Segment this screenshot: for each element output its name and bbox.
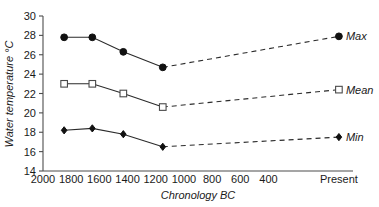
- series-max: [61, 33, 343, 71]
- x-axis-tick-label: 1800: [59, 173, 83, 185]
- data-point-marker-circle: [61, 34, 68, 41]
- series-label-min: Min: [346, 131, 364, 143]
- data-point-marker-square: [61, 81, 68, 88]
- x-axis-group: 200018001600140012001000800600400Present: [31, 171, 358, 185]
- y-axis-tick-label: 24: [24, 68, 36, 80]
- series-layer: [61, 33, 343, 150]
- series-line-dashed: [163, 36, 339, 67]
- x-axis-title: Chronology BC: [161, 189, 236, 201]
- data-point-marker-circle: [89, 34, 96, 41]
- data-point-marker-circle: [336, 33, 343, 40]
- data-point-marker-diamond: [121, 131, 127, 138]
- series-line-solid: [64, 84, 163, 107]
- data-point-marker-square: [89, 81, 96, 88]
- series-line-dashed: [163, 90, 339, 107]
- y-axis-group: 302826242220181614: [24, 10, 43, 177]
- y-axis-tick-label: 20: [24, 107, 36, 119]
- x-axis-tick-label: 800: [203, 173, 221, 185]
- y-axis-tick-labels: 302826242220181614: [24, 10, 43, 177]
- data-point-marker-square: [159, 104, 166, 111]
- series-line-solid: [64, 37, 163, 67]
- x-axis-tick-label: Present: [320, 173, 358, 185]
- y-axis-tick-label: 22: [24, 88, 36, 100]
- x-axis-tick-label: 1200: [143, 173, 167, 185]
- data-point-marker-square: [336, 86, 343, 93]
- series-line-solid: [64, 128, 163, 146]
- data-point-marker-circle: [159, 64, 166, 71]
- y-axis-tick-label: 30: [24, 10, 36, 22]
- series-line-dashed: [163, 137, 339, 147]
- y-axis-tick-label: 16: [24, 146, 36, 158]
- x-axis-tick-label: 2000: [31, 173, 55, 185]
- x-axis-tick-label: 1600: [87, 173, 111, 185]
- data-point-marker-diamond: [90, 125, 96, 132]
- series-mean: [61, 81, 342, 111]
- chart-container: 302826242220181614 200018001600140012001…: [0, 0, 379, 207]
- data-point-marker-diamond: [160, 143, 166, 150]
- y-axis-tick-label: 26: [24, 49, 36, 61]
- data-point-marker-diamond: [336, 133, 342, 140]
- y-axis-tick-label: 18: [24, 126, 36, 138]
- x-axis-tick-label: 1000: [172, 173, 196, 185]
- temperature-line-chart: 302826242220181614 200018001600140012001…: [0, 0, 379, 207]
- y-axis-tick-label: 28: [24, 29, 36, 41]
- y-axis-title: Water temperature °C: [3, 40, 15, 147]
- x-axis-tick-label: 400: [259, 173, 277, 185]
- series-inline-labels: MaxMeanMin: [346, 30, 374, 143]
- series-label-mean: Mean: [346, 84, 374, 96]
- data-point-marker-diamond: [61, 127, 67, 134]
- x-axis-tick-labels: 200018001600140012001000800600400Present: [31, 173, 358, 185]
- series-min: [61, 125, 341, 151]
- x-axis-tick-label: 1400: [115, 173, 139, 185]
- data-point-marker-circle: [120, 48, 127, 55]
- series-label-max: Max: [346, 30, 367, 42]
- x-axis-tick-label: 600: [231, 173, 249, 185]
- data-point-marker-square: [120, 90, 127, 97]
